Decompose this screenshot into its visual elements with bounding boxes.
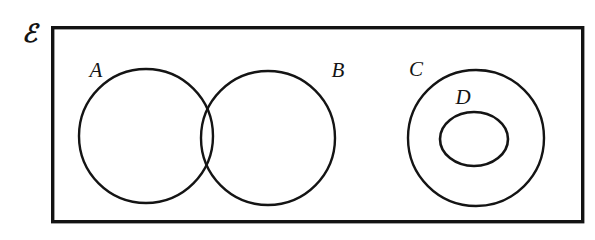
set-label-c: C [409, 57, 424, 81]
set-circle-c [408, 70, 544, 206]
set-ellipse-d [440, 112, 508, 166]
set-label-b: B [332, 58, 345, 82]
venn-diagram-svg: ℰ A B C D [0, 0, 595, 240]
universal-set-symbol: ℰ [22, 19, 40, 48]
venn-diagram-canvas: ℰ A B C D [0, 0, 595, 240]
set-circle-b [201, 71, 335, 205]
set-label-d: D [454, 85, 470, 109]
set-label-a: A [88, 58, 103, 82]
set-circle-a [79, 69, 213, 203]
